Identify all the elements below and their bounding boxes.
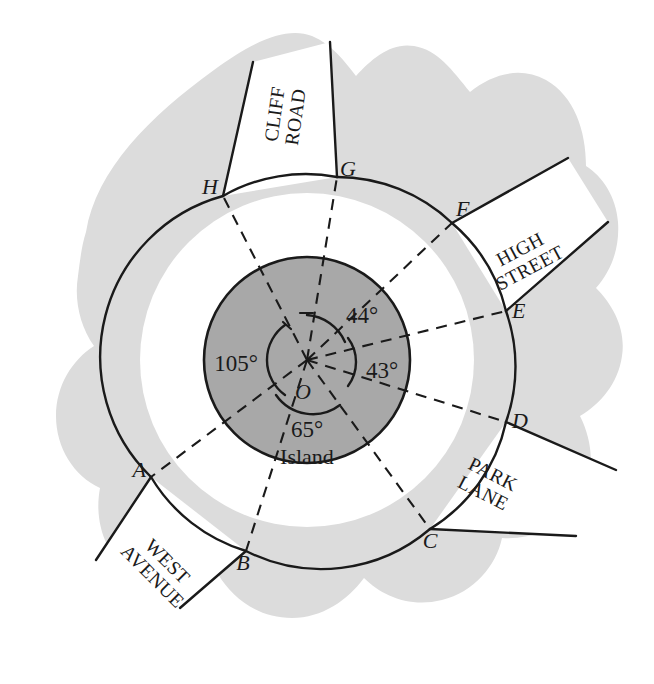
angle-label-65: 65° — [291, 417, 323, 442]
point-label-B: B — [236, 550, 249, 575]
point-label-E: E — [511, 298, 526, 323]
diagram-canvas: A B C D E F G H CLIFF ROAD HIGH STREET P… — [0, 0, 654, 684]
road-label-cliff-road: CLIFF ROAD — [260, 84, 310, 146]
point-label-H: H — [201, 174, 219, 199]
angle-label-105: 105° — [214, 351, 258, 376]
point-label-G: G — [340, 156, 356, 181]
center-point-label: O — [295, 379, 311, 404]
angle-label-44: 44° — [346, 303, 378, 328]
island-label: Island — [280, 444, 334, 469]
point-label-C: C — [423, 528, 438, 553]
point-label-F: F — [455, 196, 470, 221]
point-label-D: D — [511, 408, 528, 433]
point-label-A: A — [131, 457, 147, 482]
angle-label-43: 43° — [366, 358, 398, 383]
roundabout-diagram: A B C D E F G H CLIFF ROAD HIGH STREET P… — [0, 0, 654, 684]
